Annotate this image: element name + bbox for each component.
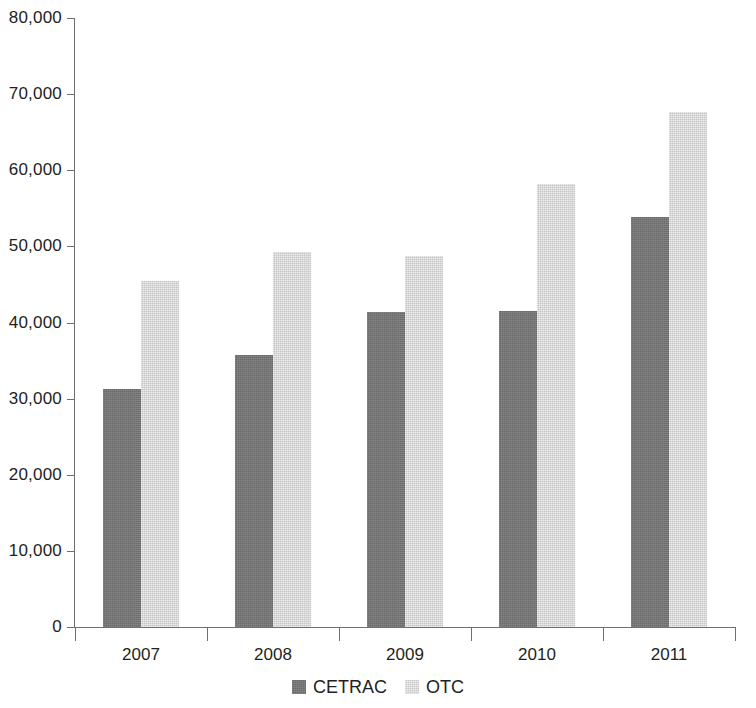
legend-swatch-icon	[292, 680, 306, 694]
bar-otc-2011[interactable]	[669, 112, 707, 627]
y-axis-tick-label: 10,000	[9, 542, 62, 559]
bar-chart: 010,00020,00030,00040,00050,00060,00070,…	[0, 0, 756, 708]
legend-swatch-icon	[405, 680, 419, 694]
x-axis-tick	[471, 628, 472, 641]
chart-legend: CETRACOTC	[0, 678, 756, 696]
bar-cetrac-2011[interactable]	[631, 217, 669, 627]
y-axis-tick	[67, 399, 75, 400]
y-axis-tick	[67, 475, 75, 476]
x-axis-tick-label: 2010	[471, 645, 603, 665]
legend-item-otc[interactable]: OTC	[405, 678, 464, 696]
x-axis-tick-label: 2007	[75, 645, 207, 665]
y-axis-tick	[67, 551, 75, 552]
bar-cetrac-2010[interactable]	[499, 311, 537, 627]
bar-otc-2009[interactable]	[405, 256, 443, 627]
bar-otc-2007[interactable]	[141, 281, 179, 627]
x-axis-tick	[603, 628, 604, 641]
y-axis-tick-label: 0	[52, 618, 62, 635]
legend-item-label: CETRAC	[313, 678, 387, 696]
y-axis-tick-label: 80,000	[9, 9, 62, 26]
y-axis-tick	[67, 323, 75, 324]
y-axis-tick	[67, 18, 75, 19]
x-axis-tick-label: 2009	[339, 645, 471, 665]
x-axis-tick-label: 2011	[603, 645, 735, 665]
plot-area	[75, 18, 735, 627]
x-axis-tick	[339, 628, 340, 641]
bar-cetrac-2008[interactable]	[235, 355, 273, 627]
y-axis-tick	[67, 94, 75, 95]
x-axis-tick	[735, 628, 736, 641]
legend-item-cetrac[interactable]: CETRAC	[292, 678, 387, 696]
legend-item-label: OTC	[426, 678, 464, 696]
y-axis-tick-label: 40,000	[9, 314, 62, 331]
x-axis-tick-label: 2008	[207, 645, 339, 665]
bar-otc-2008[interactable]	[273, 252, 311, 627]
y-axis-tick-label: 30,000	[9, 390, 62, 407]
bar-cetrac-2007[interactable]	[103, 389, 141, 627]
y-axis-tick	[67, 170, 75, 171]
x-axis-tick	[207, 628, 208, 641]
y-axis-tick	[67, 627, 75, 628]
y-axis-tick-label: 60,000	[9, 161, 62, 178]
y-axis-tick	[67, 246, 75, 247]
x-axis-tick	[75, 628, 76, 641]
y-axis-tick-label: 70,000	[9, 85, 62, 102]
bar-otc-2010[interactable]	[537, 184, 575, 627]
y-axis-tick-label: 50,000	[9, 237, 62, 254]
bar-cetrac-2009[interactable]	[367, 312, 405, 627]
x-axis-line	[74, 627, 736, 628]
y-axis-tick-label: 20,000	[9, 466, 62, 483]
